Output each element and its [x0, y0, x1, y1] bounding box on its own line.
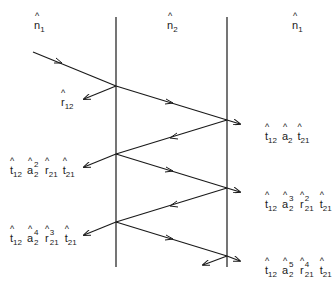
transmitted-ray-1 — [227, 120, 240, 124]
right-exit-term-1: t12a2t21 — [265, 131, 315, 145]
internal-reflection-tail — [203, 256, 227, 265]
exit-ray-left-1 — [84, 154, 116, 167]
exit-ray-left-2 — [84, 222, 116, 235]
transmitted-ray-3 — [227, 256, 240, 261]
left-exit-term-2: t12a42r321t21 — [10, 233, 82, 247]
right-exit-term-2: t12a32r221t21 — [265, 199, 335, 213]
left-exit-term-1: t12a22r21t21 — [10, 165, 80, 179]
reflection-label-r12: r12 — [61, 97, 74, 111]
medium-label-middle: n2 — [167, 20, 178, 34]
medium-label-right: n1 — [292, 20, 303, 34]
right-exit-term-3: t12a52r421t21 — [265, 265, 335, 279]
medium-label-left: n1 — [34, 20, 45, 34]
incident-ray — [33, 52, 116, 86]
transmitted-ray-2 — [227, 188, 240, 192]
reflected-ray-r12 — [84, 86, 116, 99]
